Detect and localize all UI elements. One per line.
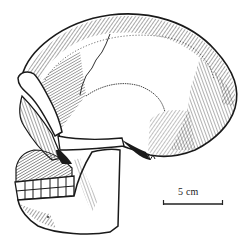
scale-bar <box>163 200 223 205</box>
skull-illustration: 5 cm <box>0 0 251 244</box>
skull-drawing <box>0 0 251 244</box>
cranium <box>22 14 237 160</box>
scale-bar-label: 5 cm <box>178 186 199 197</box>
